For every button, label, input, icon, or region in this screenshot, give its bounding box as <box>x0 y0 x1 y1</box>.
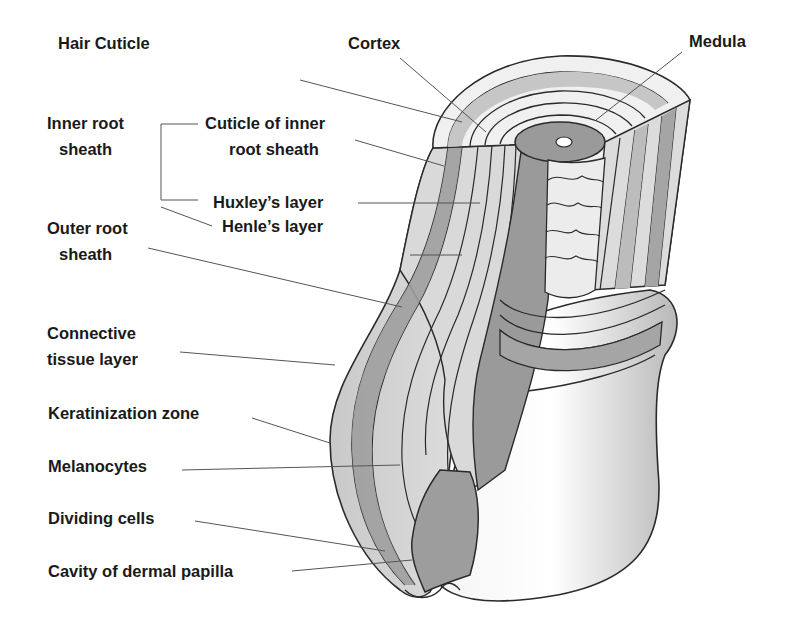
bracket-henle <box>161 207 212 226</box>
label-hair-cuticle: Hair Cuticle <box>58 30 150 56</box>
label-melanocytes: Melanocytes <box>48 453 147 479</box>
label-outer-root-sheath-line2: sheath <box>59 241 112 267</box>
label-cortex: Cortex <box>348 30 400 56</box>
label-connective-line2: tissue layer <box>47 346 138 372</box>
label-dividing-cells: Dividing cells <box>48 505 154 531</box>
leader-outer-root-sheath <box>148 248 402 307</box>
label-inner-root-sheath-line2: sheath <box>59 136 112 162</box>
label-cuticle-inner-line2: root sheath <box>229 136 319 162</box>
label-inner-root-sheath-line1: Inner root <box>47 110 124 136</box>
label-connective-line1: Connective <box>47 320 136 346</box>
label-cuticle-inner-line1: Cuticle of inner <box>205 110 325 136</box>
label-cavity-dermal-papilla: Cavity of dermal papilla <box>48 558 233 584</box>
label-medula: Medula <box>689 28 746 54</box>
label-outer-root-sheath-line1: Outer root <box>47 215 128 241</box>
medulla-column <box>545 158 605 298</box>
leader-connective <box>180 352 335 365</box>
label-henles-layer: Henle’s layer <box>222 213 323 239</box>
label-huxleys-layer: Huxley’s layer <box>213 189 323 215</box>
label-keratinization-zone: Keratinization zone <box>48 400 199 426</box>
leader-keratinization <box>252 418 330 443</box>
bracket-inner-root-sheath <box>161 124 198 200</box>
